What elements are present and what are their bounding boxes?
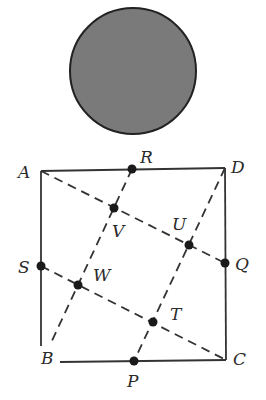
dashed-RB <box>50 169 132 345</box>
geometry-figure: A R D V U S W Q T B C P <box>0 0 266 400</box>
label-W: W <box>93 265 112 285</box>
label-S: S <box>18 257 30 277</box>
point-V <box>110 204 119 213</box>
label-V: V <box>112 221 126 241</box>
point-T <box>149 318 158 327</box>
square <box>41 168 226 362</box>
label-Q: Q <box>235 254 249 274</box>
point-Q <box>221 259 230 268</box>
dashed-lines <box>41 168 226 361</box>
points <box>37 165 230 366</box>
labels: A R D V U S W Q T B C P <box>16 147 249 391</box>
dashed-AQ <box>41 171 225 263</box>
point-S <box>37 262 46 271</box>
point-P <box>130 357 139 366</box>
label-U: U <box>172 214 187 234</box>
dashed-DP <box>134 168 225 361</box>
label-R: R <box>139 147 153 167</box>
label-P: P <box>126 371 139 391</box>
label-C: C <box>233 349 246 369</box>
label-B: B <box>40 348 54 368</box>
label-A: A <box>16 162 30 182</box>
shaded-circle <box>70 8 196 134</box>
point-U <box>185 241 194 250</box>
dashed-SC <box>41 266 226 360</box>
label-D: D <box>230 157 245 177</box>
point-R <box>128 165 137 174</box>
point-W <box>74 281 83 290</box>
side-BC <box>60 360 226 362</box>
label-T: T <box>170 304 183 324</box>
